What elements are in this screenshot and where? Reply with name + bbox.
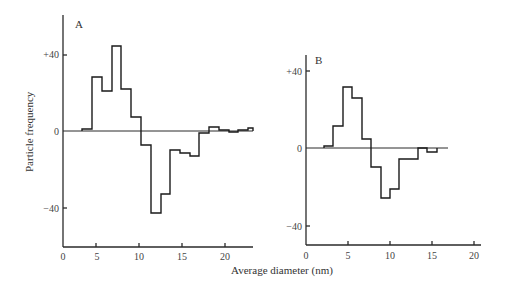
panel-a-xtick-15: 15 [177, 251, 187, 262]
panel-b-ytick-pos40: +40 [286, 66, 302, 77]
figure: +40 0 −40 0 5 10 15 20 A Particle freque… [0, 0, 507, 283]
panel-b-label: B [315, 54, 322, 66]
panel-b-ytick-0: 0 [297, 143, 302, 154]
panel-b-xtick-0: 0 [304, 250, 309, 261]
panel-b-xtick-20: 20 [469, 250, 479, 261]
panel-a-histogram [82, 46, 253, 213]
panel-b-xtick-15: 15 [427, 250, 437, 261]
x-axis-title: Average diameter (nm) [231, 264, 333, 277]
panel-a-xtick-5: 5 [95, 251, 100, 262]
panel-a-ytick-0: 0 [54, 126, 59, 137]
panel-b-ytick-neg40: −40 [286, 221, 302, 232]
panel-b-xtick-10: 10 [385, 250, 395, 261]
panel-a: +40 0 −40 0 5 10 15 20 A Particle freque… [23, 15, 253, 262]
panel-a-xtick-0: 0 [61, 251, 66, 262]
panel-a-ytick-neg40: −40 [43, 203, 59, 214]
y-axis-title: Particle frequency [23, 91, 35, 172]
panel-a-ytick-pos40: +40 [43, 49, 59, 60]
panel-b-xtick-5: 5 [346, 250, 351, 261]
panel-b-histogram [324, 87, 437, 198]
panel-a-label: A [75, 18, 83, 30]
panel-b: +40 0 −40 0 5 10 15 20 B Average diamete… [231, 54, 481, 277]
panel-a-xtick-20: 20 [220, 251, 230, 262]
panel-a-xtick-10: 10 [134, 251, 144, 262]
